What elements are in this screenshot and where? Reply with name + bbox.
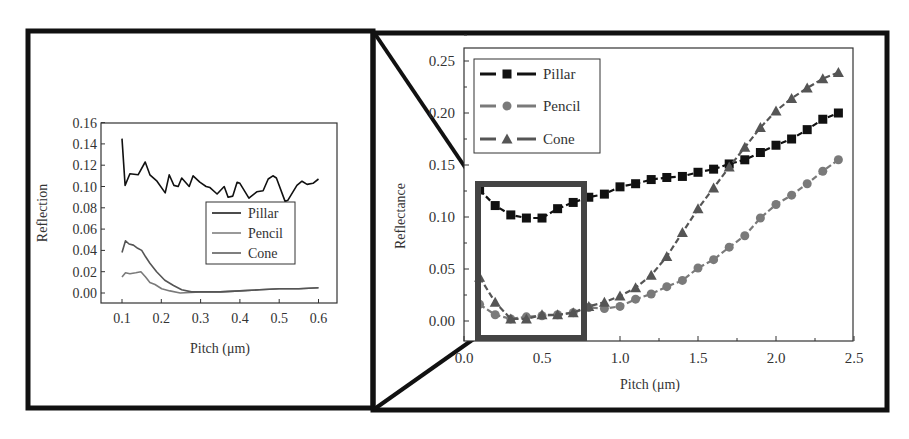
left-x-tick-label: 0.3 <box>192 311 210 326</box>
right-chart: 0.000.050.100.150.200.25 0.00.51.01.52.0… <box>393 35 863 393</box>
right-y-tick-label: 0.10 <box>429 209 455 225</box>
left-x-tick-label: 0.2 <box>153 311 171 326</box>
right-x-axis-label: Pitch (μm) <box>620 377 680 393</box>
zoom-connector-bottom <box>373 338 475 410</box>
left-y-tick-label: 0.02 <box>73 265 98 280</box>
right-y-tick-label: 0.00 <box>429 313 455 329</box>
right-x-tick-label: 1.0 <box>611 350 630 366</box>
left-x-tick-label: 0.1 <box>113 311 131 326</box>
right-x-tick-label: 0.5 <box>533 350 552 366</box>
left-x-axis-label: Pitch (μm) <box>190 341 250 357</box>
left-chart: 0.000.020.040.060.080.100.120.140.16 0.1… <box>35 116 337 357</box>
zoom-connector-top <box>373 31 475 182</box>
left-y-tick-label: 0.12 <box>73 158 98 173</box>
left-y-tick-label: 0.04 <box>73 243 98 258</box>
left-y-axis: 0.000.020.040.060.080.100.120.140.16 <box>73 116 106 301</box>
left-y-axis-label: Reflection <box>35 184 50 242</box>
right-legend-cone: Cone <box>543 131 575 147</box>
left-legend-pencil: Pencil <box>248 226 283 241</box>
right-y-tick-label: 0.15 <box>429 157 455 173</box>
left-x-tick-label: 0.4 <box>231 311 249 326</box>
right-y-tick-label: 0.25 <box>429 53 455 69</box>
left-legend: Pillar Pencil Cone <box>206 202 295 264</box>
left-y-tick-label: 0.14 <box>73 137 98 152</box>
right-legend-pillar: Pillar <box>543 66 576 82</box>
right-x-tick-label: 2.5 <box>845 350 864 366</box>
right-y-tick-label: 0.05 <box>429 261 455 277</box>
left-x-tick-label: 0.6 <box>310 311 328 326</box>
right-x-tick-label: 2.0 <box>767 350 786 366</box>
left-y-tick-label: 0.00 <box>73 286 98 301</box>
right-y-axis-label: Reflectance <box>393 183 408 249</box>
right-x-tick-label: 0.0 <box>455 350 474 366</box>
left-legend-pillar: Pillar <box>248 206 279 221</box>
right-legend: Pillar Pencil Cone <box>474 59 600 153</box>
left-legend-cone: Cone <box>248 246 278 261</box>
right-y-tick-label: 0.20 <box>429 105 455 121</box>
figure: 0.000.020.040.060.080.100.120.140.16 0.1… <box>0 0 909 439</box>
right-legend-pencil: Pencil <box>543 98 581 114</box>
left-y-tick-label: 0.06 <box>73 222 98 237</box>
left-y-tick-label: 0.16 <box>73 116 98 131</box>
right-x-tick-label: 1.5 <box>689 350 708 366</box>
left-y-tick-label: 0.10 <box>73 180 98 195</box>
left-x-tick-label: 0.5 <box>270 311 288 326</box>
left-y-tick-label: 0.08 <box>73 201 98 216</box>
right-y-axis: 0.000.050.100.150.200.25 <box>429 35 469 329</box>
